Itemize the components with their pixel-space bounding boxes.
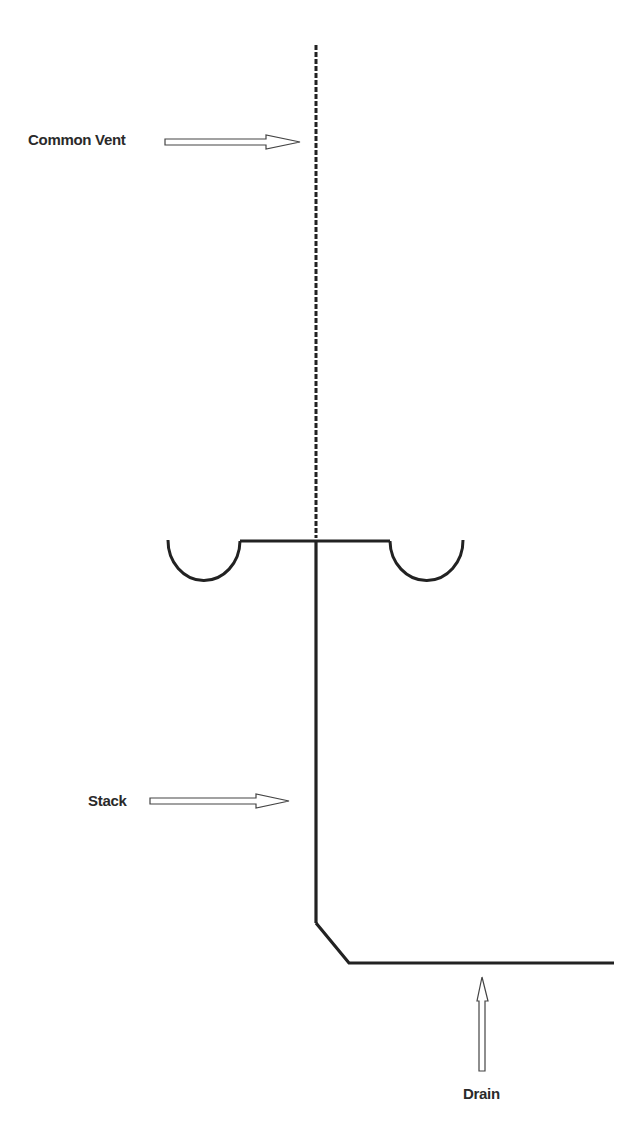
trap-left: [168, 540, 240, 580]
drain-arrow-icon: [477, 977, 488, 1071]
stack-label: Stack: [88, 792, 127, 809]
trap-right: [390, 540, 463, 581]
stack-arrow-icon: [150, 794, 289, 808]
common-vent-arrow-icon: [165, 135, 300, 149]
drain-line: [316, 923, 614, 963]
common-vent-label: Common Vent: [28, 131, 126, 148]
drain-label: Drain: [463, 1085, 500, 1102]
plumbing-diagram: [0, 0, 642, 1125]
